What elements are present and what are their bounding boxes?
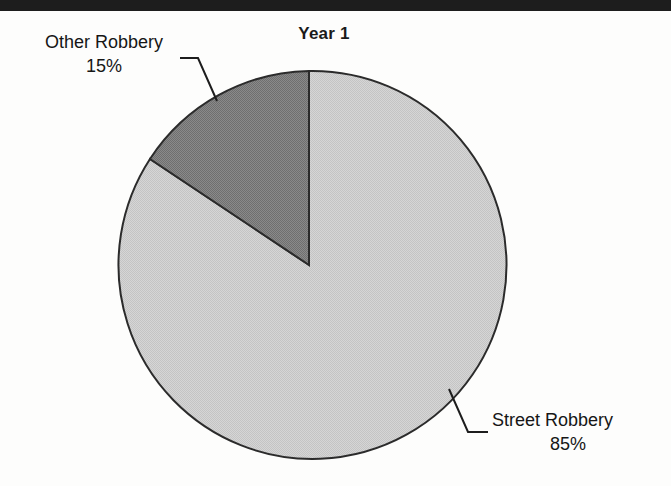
pie-label-street-robbery-percent: 85% [492,432,644,456]
pie-label-street-robbery-category: Street Robbery [492,408,652,432]
pie-label-other-robbery: Other Robbery 15% [28,30,180,78]
pie-chart-figure: Year 1 Other Robbery 15% Street R [0,0,671,486]
pie-label-other-robbery-percent: 15% [28,54,180,78]
leader-line-other-robbery [180,58,217,101]
pie-label-street-robbery: Street Robbery 85% [492,408,652,456]
pie-label-other-robbery-category: Other Robbery [28,30,180,54]
